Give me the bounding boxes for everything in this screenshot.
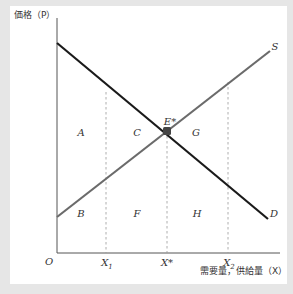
equilibrium-point bbox=[163, 127, 171, 135]
region-h-label: H bbox=[193, 209, 202, 219]
xstar-tick-label: X* bbox=[161, 258, 173, 268]
region-b-label: B bbox=[77, 209, 84, 219]
supply-demand-chart bbox=[0, 0, 293, 294]
x2-tick-label: X2 bbox=[223, 258, 235, 271]
region-g-label: G bbox=[192, 128, 200, 138]
x1-tick-label: X1 bbox=[101, 258, 113, 271]
x-axis-title: 需要量，供給量（X） bbox=[200, 267, 287, 276]
region-a-label: A bbox=[77, 128, 84, 138]
supply-label: S bbox=[272, 42, 279, 52]
y-axis-title: 価格（P） bbox=[14, 11, 55, 20]
region-f-label: F bbox=[134, 209, 141, 219]
equilibrium-label: E* bbox=[164, 117, 176, 127]
demand-label: D bbox=[270, 209, 278, 219]
region-c-label: C bbox=[133, 128, 141, 138]
origin-label: O bbox=[45, 257, 53, 267]
